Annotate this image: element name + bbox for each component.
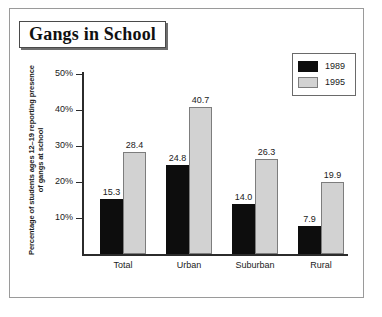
- y-tick-40: 40%: [76, 110, 82, 111]
- bar-suburban-1989: [232, 204, 255, 254]
- y-tick-30: 30%: [76, 146, 82, 147]
- bar-total-1989: [100, 199, 123, 254]
- x-tick-label-suburban: Suburban: [235, 260, 274, 270]
- bar-urban-1995: [189, 107, 212, 254]
- bar-group-suburban: 14.0 26.3: [232, 159, 278, 254]
- bar-value-suburban-1989: 14.0: [235, 192, 253, 202]
- y-axis-line: [82, 72, 84, 256]
- y-axis-title: Percentage of students ages 12–19 report…: [24, 62, 48, 258]
- bar-wrap-total-1995: 28.4: [123, 152, 146, 254]
- bar-wrap-suburban-1995: 26.3: [255, 159, 278, 254]
- bar-rural-1995: [321, 182, 344, 254]
- bar-wrap-rural-1989: 7.9: [298, 226, 321, 254]
- y-tick-20: 20%: [76, 182, 82, 183]
- y-tick-label-20: 20%: [55, 176, 73, 186]
- chart-figure: Gangs in School 1989 1995 Percentage of …: [0, 0, 382, 317]
- chart-title-box: Gangs in School: [19, 21, 166, 48]
- bar-group-urban: 24.8 40.7: [166, 107, 212, 254]
- bar-wrap-rural-1995: 19.9: [321, 182, 344, 254]
- bar-value-total-1995: 28.4: [126, 140, 144, 150]
- bar-value-rural-1995: 19.9: [324, 170, 342, 180]
- bar-group-rural: 7.9 19.9: [298, 182, 344, 254]
- y-tick-10: 10%: [76, 218, 82, 219]
- bar-wrap-total-1989: 15.3: [100, 199, 123, 254]
- y-tick-label-10: 10%: [55, 212, 73, 222]
- x-tick-label-urban: Urban: [177, 260, 202, 270]
- y-tick-50: 50%: [76, 74, 82, 75]
- bar-suburban-1995: [255, 159, 278, 254]
- bar-total-1995: [123, 152, 146, 254]
- y-tick-label-30: 30%: [55, 140, 73, 150]
- bar-wrap-suburban-1989: 14.0: [232, 204, 255, 254]
- bar-group-total: 15.3 28.4: [100, 152, 146, 254]
- legend-label-1989: 1989: [325, 61, 345, 71]
- y-tick-label-50: 50%: [55, 68, 73, 78]
- y-tick-label-40: 40%: [55, 104, 73, 114]
- bar-value-urban-1989: 24.8: [169, 153, 187, 163]
- bar-wrap-urban-1995: 40.7: [189, 107, 212, 254]
- x-axis-line: [82, 254, 348, 256]
- x-tick-label-rural: Rural: [310, 260, 332, 270]
- bar-urban-1989: [166, 165, 189, 254]
- plot-area: 50% 40% 30% 20% 10% 15.3 28.4 Total: [82, 72, 348, 256]
- legend-swatch-1989: [298, 61, 318, 72]
- bar-value-urban-1995: 40.7: [192, 95, 210, 105]
- x-tick-label-total: Total: [113, 260, 132, 270]
- page-title: Gangs in School: [29, 24, 156, 44]
- bar-wrap-urban-1989: 24.8: [166, 165, 189, 254]
- bar-value-suburban-1995: 26.3: [258, 147, 276, 157]
- bar-value-total-1989: 15.3: [103, 187, 121, 197]
- bar-rural-1989: [298, 226, 321, 254]
- bar-value-rural-1989: 7.9: [303, 214, 316, 224]
